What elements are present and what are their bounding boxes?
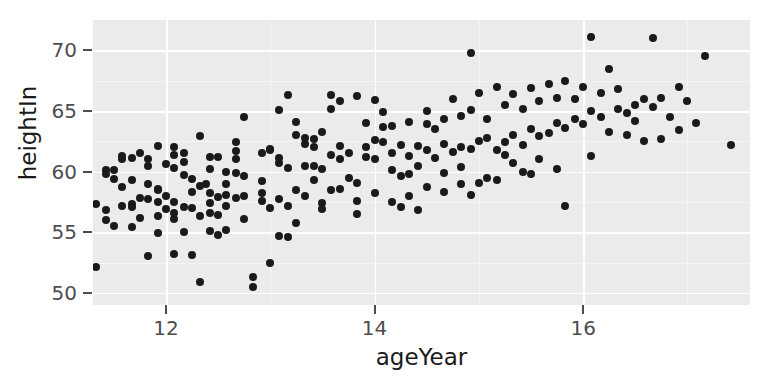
scatter-point	[102, 206, 110, 214]
scatter-point	[196, 132, 204, 140]
scatter-point	[388, 122, 396, 130]
scatter-point	[214, 211, 222, 219]
scatter-point	[483, 174, 491, 182]
scatter-point	[475, 89, 483, 97]
scatter-point	[545, 80, 553, 88]
scatter-point	[188, 188, 196, 196]
scatter-point	[457, 112, 465, 120]
scatter-point	[509, 159, 517, 167]
scatter-point	[423, 107, 431, 115]
scatter-point	[128, 154, 136, 162]
scatter-point	[493, 176, 501, 184]
scatter-point	[154, 142, 162, 150]
scatter-point	[136, 149, 144, 157]
scatter-point	[587, 107, 595, 115]
scatter-point	[371, 189, 379, 197]
scatter-point	[388, 198, 396, 206]
scatter-point	[318, 128, 326, 136]
scatter-point	[362, 153, 370, 161]
scatter-point	[692, 119, 700, 127]
scatter-point	[275, 106, 283, 114]
scatter-point	[475, 179, 483, 187]
scatter-point	[631, 117, 639, 125]
scatter-point	[258, 197, 266, 205]
scatter-point	[519, 168, 527, 176]
scatter-point	[509, 90, 517, 98]
scatter-point	[579, 83, 587, 91]
scatter-point	[180, 228, 188, 236]
scatter-point	[440, 169, 448, 177]
scatter-point	[144, 180, 152, 188]
scatter-point	[258, 177, 266, 185]
scatter-point	[414, 142, 422, 150]
scatter-point	[154, 229, 162, 237]
scatter-point	[379, 123, 387, 131]
scatter-point	[232, 147, 240, 155]
y-axis-title: heightIn	[15, 43, 41, 223]
scatter-point	[440, 188, 448, 196]
x-axis-tick-mark	[582, 305, 584, 314]
scatter-point	[222, 191, 230, 199]
scatter-point	[405, 118, 413, 126]
scatter-point	[614, 85, 622, 93]
scatter-point	[379, 108, 387, 116]
scatter-point	[493, 83, 501, 91]
scatter-point	[483, 134, 491, 142]
scatter-point	[649, 34, 657, 42]
scatter-point	[467, 49, 475, 57]
scatter-point	[240, 172, 248, 180]
scatter-point	[457, 163, 465, 171]
scatter-point	[535, 132, 543, 140]
scatter-point	[440, 140, 448, 148]
scatter-point	[180, 171, 188, 179]
scatter-point	[196, 278, 204, 286]
scatter-point	[301, 162, 309, 170]
grid-line-major-vertical	[583, 20, 585, 305]
scatter-point	[561, 124, 569, 132]
scatter-point	[467, 106, 475, 114]
scatter-point	[162, 160, 170, 168]
scatter-point	[336, 142, 344, 150]
x-axis-tick-label: 14	[362, 316, 387, 340]
scatter-point	[519, 105, 527, 113]
scatter-point	[675, 83, 683, 91]
scatter-point	[675, 126, 683, 134]
y-axis-tick-mark	[83, 49, 92, 51]
scatter-point	[405, 152, 413, 160]
scatter-point	[431, 154, 439, 162]
chart-root: 5055606570 121416 ageYear heightIn	[0, 0, 766, 386]
scatter-point	[170, 198, 178, 206]
scatter-point	[292, 219, 300, 227]
scatter-point	[423, 146, 431, 154]
scatter-point	[206, 227, 214, 235]
y-axis-tick-mark	[83, 292, 92, 294]
scatter-point	[449, 95, 457, 103]
scatter-point	[597, 113, 605, 121]
scatter-point	[657, 94, 665, 102]
scatter-point	[527, 125, 535, 133]
scatter-point	[196, 212, 204, 220]
scatter-point	[188, 204, 196, 212]
x-axis-tick-mark	[374, 305, 376, 314]
scatter-point	[188, 251, 196, 259]
grid-line-minor-vertical	[479, 20, 480, 305]
plot-panel	[93, 20, 750, 305]
scatter-point	[162, 205, 170, 213]
scatter-point	[284, 233, 292, 241]
scatter-point	[640, 95, 648, 103]
grid-line-minor-horizontal	[93, 263, 750, 264]
scatter-point	[102, 216, 110, 224]
scatter-point	[475, 137, 483, 145]
scatter-point	[102, 170, 110, 178]
scatter-point	[509, 131, 517, 139]
grid-line-minor-horizontal	[93, 141, 750, 142]
scatter-point	[501, 138, 509, 146]
scatter-point	[388, 149, 396, 157]
scatter-point	[188, 175, 196, 183]
scatter-point	[527, 84, 535, 92]
scatter-point	[292, 186, 300, 194]
scatter-point	[180, 149, 188, 157]
scatter-point	[353, 210, 361, 218]
scatter-point	[162, 192, 170, 200]
scatter-point	[110, 222, 118, 230]
